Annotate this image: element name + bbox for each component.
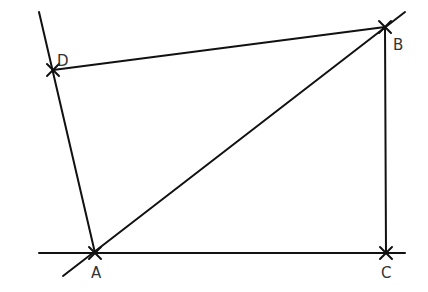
segment-BC: [385, 27, 386, 253]
point-C-label: C: [381, 264, 391, 282]
point-D-label: D: [57, 52, 69, 70]
point-B-label: B: [393, 36, 403, 54]
line-AD: [39, 12, 95, 253]
line-AB: [63, 12, 405, 276]
geometry-diagram: A B C D: [0, 0, 428, 292]
segment-DB: [53, 27, 385, 70]
point-A-label: A: [91, 264, 102, 282]
